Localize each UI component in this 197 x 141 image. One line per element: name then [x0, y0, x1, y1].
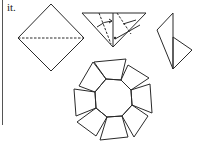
triangle-fold — [82, 13, 146, 47]
octagonal-ring — [74, 59, 152, 140]
diagram-canvas — [0, 0, 197, 141]
square-diamond-fold — [18, 4, 84, 71]
folded-unit — [157, 13, 192, 69]
